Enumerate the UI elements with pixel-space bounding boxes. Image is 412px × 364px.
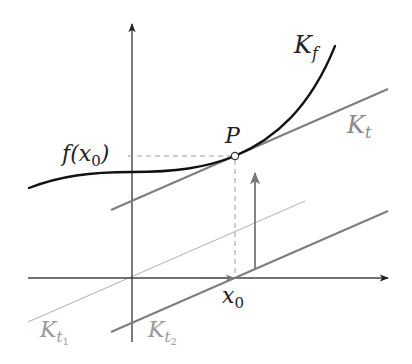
label-f-x0: f(x0) bbox=[60, 141, 109, 170]
label-kt: Kt bbox=[346, 111, 372, 142]
point-p bbox=[231, 152, 238, 159]
function-tangent-diagram: Kf Kt P f(x0) x0 Kt1 Kt2 bbox=[0, 0, 412, 364]
label-x0: x0 bbox=[222, 283, 244, 312]
label-p: P bbox=[224, 123, 241, 148]
parallel-line-kt1 bbox=[28, 201, 305, 322]
label-kt1: Kt1 bbox=[39, 317, 69, 347]
curve-kf bbox=[29, 46, 335, 188]
label-kf: Kf bbox=[293, 31, 321, 63]
parallel-line-kt2 bbox=[111, 211, 388, 332]
label-kt2: Kt2 bbox=[147, 317, 177, 347]
